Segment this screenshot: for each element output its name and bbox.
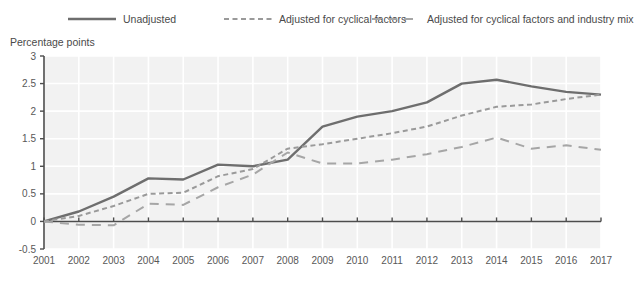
x-tick-label: 2015 [520, 255, 543, 266]
x-tick-label: 2003 [103, 255, 126, 266]
x-tick-label: 2012 [416, 255, 439, 266]
x-tick-label: 2007 [242, 255, 265, 266]
y-tick-label: 1 [30, 161, 36, 172]
x-tick-label: 2014 [485, 255, 508, 266]
y-tick-label: 0.5 [22, 188, 36, 199]
x-tick-label: 2011 [381, 255, 403, 266]
x-tick-label: 2006 [207, 255, 230, 266]
x-tick-label: 2001 [33, 255, 56, 266]
x-tick-label: 2017 [590, 255, 613, 266]
x-tick-label: 2008 [277, 255, 300, 266]
y-tick-label: 1.5 [22, 133, 36, 144]
x-tick-label: 2010 [346, 255, 369, 266]
x-tick-label: 2004 [137, 255, 160, 266]
x-tick-label: 2013 [451, 255, 474, 266]
x-tick-label: 2016 [555, 255, 578, 266]
y-tick-label: 2 [30, 106, 36, 117]
y-tick-label: 2.5 [22, 78, 36, 89]
y-tick-label: 0 [30, 216, 36, 227]
y-tick-label: -0.5 [19, 244, 37, 255]
y-tick-label: 3 [30, 51, 36, 62]
x-tick-label: 2002 [68, 255, 91, 266]
x-tick-label: 2005 [172, 255, 195, 266]
y-axis-ticks: -0.500.511.522.53 [19, 51, 44, 255]
x-tick-label: 2009 [311, 255, 334, 266]
